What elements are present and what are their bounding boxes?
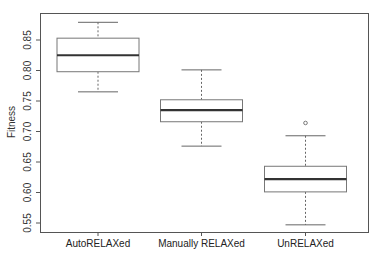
- x-tick-label: AutoRELAXed: [66, 238, 131, 249]
- x-axis: AutoRELAXedManually RELAXedUnRELAXed: [66, 233, 334, 250]
- x-tick-label: Manually RELAXed: [158, 238, 245, 249]
- box-0: [57, 22, 139, 92]
- y-axis: 0.550.600.650.700.750.800.85: [22, 30, 41, 233]
- outlier-point: [304, 121, 308, 125]
- boxplot-chart: 0.550.600.650.700.750.800.85 AutoRELAXed…: [0, 0, 381, 261]
- y-tick-label: 0.75: [22, 91, 33, 111]
- y-tick-label: 0.65: [22, 152, 33, 172]
- y-axis-label: Fitness: [6, 106, 17, 138]
- y-tick-label: 0.85: [22, 30, 33, 50]
- y-tick-label: 0.60: [22, 182, 33, 202]
- y-tick-label: 0.55: [22, 213, 33, 233]
- x-tick-label: UnRELAXed: [277, 238, 334, 249]
- y-tick-label: 0.70: [22, 121, 33, 141]
- box-2: [265, 121, 347, 225]
- box-1: [161, 70, 243, 146]
- boxes: [57, 22, 347, 225]
- y-tick-label: 0.80: [22, 60, 33, 80]
